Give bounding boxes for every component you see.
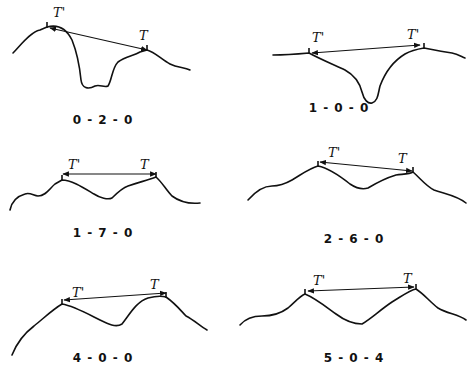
- profile-panel: T'T4 - 0 - 0: [12, 277, 207, 365]
- panel-code-label: 0 - 2 - 0: [73, 113, 134, 127]
- left-marker-label: T': [313, 273, 325, 288]
- terrain-profile-curve: [12, 296, 207, 355]
- panel-code-label: 4 - 0 - 0: [73, 351, 134, 365]
- panel-code-label: 2 - 6 - 0: [324, 232, 385, 246]
- profile-panel: T'T1 - 7 - 0: [10, 157, 200, 240]
- terrain-profile-curve: [13, 26, 190, 88]
- panel-code-label: 1 - 7 - 0: [73, 226, 134, 240]
- left-marker-label: T': [312, 30, 324, 45]
- profile-panel: T'T'1 - 0 - 0: [273, 27, 465, 115]
- right-marker-label: T: [398, 151, 408, 166]
- profile-panel: T'T2 - 6 - 0: [248, 145, 466, 246]
- terrain-profile-curve: [248, 166, 466, 203]
- profile-panel: T'T0 - 2 - 0: [13, 5, 190, 127]
- right-marker-label: T: [150, 277, 160, 292]
- double-arrow-icon: [50, 28, 147, 50]
- terrain-profile-curve: [240, 289, 466, 325]
- left-marker-label: T': [328, 145, 340, 160]
- right-marker-label: T: [139, 28, 149, 43]
- left-marker-label: T': [72, 285, 84, 300]
- left-marker-label: T': [53, 5, 65, 20]
- right-marker-label: T: [140, 157, 150, 172]
- profile-panel: T'T5 - 0 - 4: [240, 271, 466, 365]
- panel-code-label: 1 - 0 - 0: [309, 101, 370, 115]
- terrain-profile-curve: [273, 48, 465, 103]
- terrain-profile-curve: [10, 177, 200, 210]
- double-arrow-icon: [312, 45, 420, 53]
- panel-code-label: 5 - 0 - 4: [324, 351, 385, 365]
- right-marker-label: T': [407, 27, 419, 42]
- left-marker-label: T': [68, 157, 80, 172]
- valley-profile-figure: T'T0 - 2 - 0T'T'1 - 0 - 0T'T1 - 7 - 0T'T…: [0, 0, 473, 369]
- right-marker-label: T: [403, 271, 413, 286]
